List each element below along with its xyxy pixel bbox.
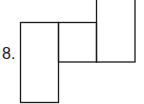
- polyomino-figure: [0, 0, 144, 104]
- middle-square: [59, 23, 97, 63]
- left-tall-rect: [21, 23, 59, 103]
- right-tall-rect: [97, 0, 136, 62]
